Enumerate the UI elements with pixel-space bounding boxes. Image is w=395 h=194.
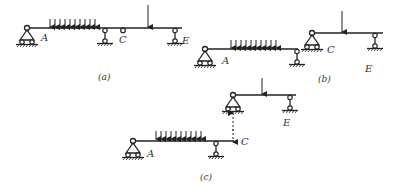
label-C: C (327, 44, 335, 55)
distributed-load (50, 19, 95, 27)
label-C: C (241, 136, 249, 147)
label-E: E (181, 35, 190, 46)
label-E: E (364, 63, 373, 74)
caption-c: (c) (200, 172, 213, 182)
panel-a: A C E (a) (16, 5, 190, 82)
distributed-load (231, 40, 276, 48)
roller-support-E (167, 28, 183, 46)
label-C: C (119, 34, 127, 45)
panel-c: E A C (c) (122, 78, 298, 182)
caption-a: (a) (98, 72, 111, 82)
beam-diagram: A C E (a) A C E (b) E A C (c) (0, 0, 395, 194)
caption-b: (b) (318, 74, 331, 84)
label-A: A (40, 32, 48, 43)
roller-support (289, 49, 305, 67)
label-A: A (221, 55, 229, 66)
label-E: E (282, 117, 291, 128)
panel-b: A C E (b) (194, 11, 383, 84)
hinge-C (121, 28, 126, 33)
roller-support-E (367, 33, 383, 51)
distributed-load (156, 131, 201, 139)
roller-support-E (282, 95, 298, 113)
roller-support (208, 141, 224, 159)
label-A: A (146, 148, 154, 159)
roller-support (97, 28, 113, 46)
